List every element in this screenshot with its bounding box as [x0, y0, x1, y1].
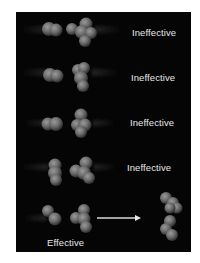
- reaction-products: [160, 192, 183, 241]
- row-5-reactants: [24, 204, 92, 233]
- row-3-outcome-label: Ineffective: [130, 118, 174, 128]
- row-2-outcome-label: Ineffective: [131, 73, 175, 83]
- row-4-outcome-label: Ineffective: [127, 163, 171, 173]
- row-5-outcome-label: Effective: [47, 238, 84, 248]
- right-arrow-icon: [97, 215, 141, 221]
- row-4-molecules: [22, 157, 116, 187]
- row-1-molecules: [22, 18, 121, 48]
- row-1-outcome-label: Ineffective: [132, 28, 176, 38]
- row-2-molecules: [22, 62, 118, 92]
- collision-diagram: [0, 0, 200, 263]
- row-3-molecules: [24, 109, 115, 139]
